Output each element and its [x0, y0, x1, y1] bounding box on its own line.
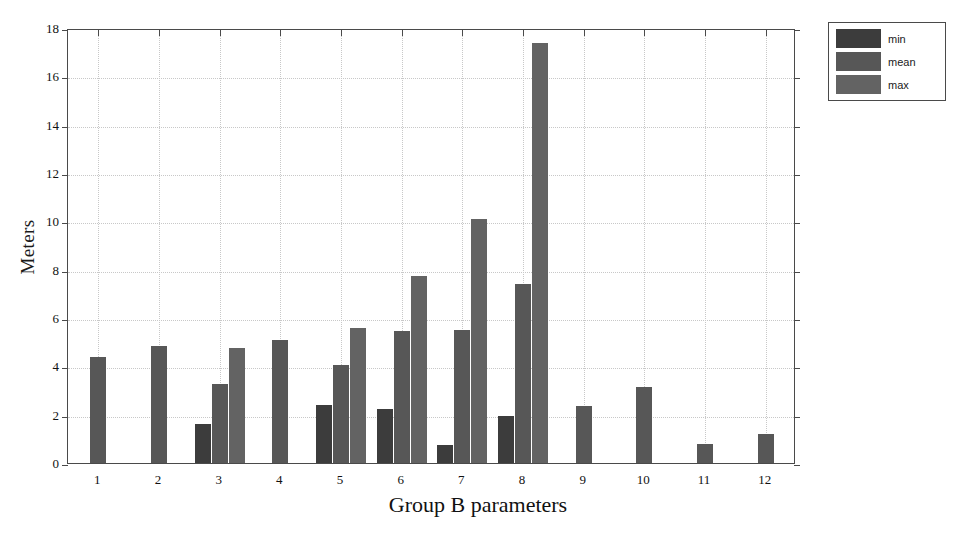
x-tick-label: 11 — [698, 472, 711, 488]
y-tick-mark — [794, 175, 800, 176]
bar-mean-6 — [394, 331, 410, 463]
y-tick-mark — [794, 368, 800, 369]
x-tick-label: 4 — [276, 472, 283, 488]
bar-max-5 — [350, 328, 366, 463]
y-tick-mark — [62, 127, 68, 128]
x-tick-label: 12 — [758, 472, 771, 488]
y-tick-label: 18 — [25, 21, 59, 37]
gridline-horizontal — [68, 175, 794, 176]
legend-label-max: max — [888, 79, 909, 91]
legend-swatch-min — [836, 29, 881, 48]
gridline-horizontal — [68, 223, 794, 224]
gridline-horizontal — [68, 127, 794, 128]
y-tick-mark — [794, 320, 800, 321]
gridline-horizontal — [68, 417, 794, 418]
x-tick-mark — [766, 30, 767, 36]
y-tick-mark — [62, 465, 68, 466]
bar-mean-3 — [212, 384, 228, 463]
y-tick-label: 16 — [25, 69, 59, 85]
gridline-vertical — [766, 30, 767, 463]
bar-mean-10 — [636, 387, 652, 463]
y-tick-mark — [62, 30, 68, 31]
x-tick-label: 7 — [458, 472, 465, 488]
y-tick-mark — [62, 223, 68, 224]
gridline-horizontal — [68, 320, 794, 321]
bar-mean-12 — [758, 434, 774, 463]
legend-label-min: min — [888, 33, 906, 45]
x-tick-label: 3 — [215, 472, 222, 488]
x-tick-mark — [644, 30, 645, 36]
y-tick-label: 14 — [25, 118, 59, 134]
x-tick-label: 10 — [637, 472, 650, 488]
y-tick-mark — [62, 78, 68, 79]
gridline-horizontal — [68, 272, 794, 273]
chart-figure: Meters 024681012141618 123456789101112 G… — [0, 0, 956, 548]
x-tick-mark — [220, 30, 221, 36]
legend-item-mean: mean — [836, 52, 939, 71]
x-tick-label: 2 — [155, 472, 162, 488]
x-tick-label: 9 — [579, 472, 586, 488]
bar-mean-9 — [576, 406, 592, 463]
y-tick-mark — [794, 30, 800, 31]
y-tick-mark — [62, 272, 68, 273]
y-tick-mark — [62, 175, 68, 176]
gridline-vertical — [705, 30, 706, 463]
y-tick-mark — [62, 368, 68, 369]
gridline-horizontal — [68, 78, 794, 79]
x-axis-title: Group B parameters — [0, 492, 956, 518]
legend-item-min: min — [836, 29, 939, 48]
legend-label-mean: mean — [888, 56, 916, 68]
x-tick-mark — [462, 30, 463, 36]
legend-item-max: max — [836, 75, 939, 94]
bar-mean-7 — [454, 330, 470, 463]
y-tick-mark — [794, 223, 800, 224]
x-tick-mark — [705, 30, 706, 36]
bar-min-6 — [377, 409, 393, 463]
y-tick-label: 2 — [25, 408, 59, 424]
bar-max-3 — [229, 348, 245, 463]
x-tick-mark — [159, 30, 160, 36]
x-tick-label: 6 — [397, 472, 404, 488]
x-tick-mark — [523, 30, 524, 36]
bar-min-8 — [498, 416, 514, 463]
y-tick-label: 4 — [25, 359, 59, 375]
x-tick-label: 5 — [337, 472, 344, 488]
y-tick-label: 0 — [25, 456, 59, 472]
bar-max-7 — [471, 219, 487, 463]
bar-mean-11 — [697, 444, 713, 463]
plot-area — [67, 29, 795, 464]
y-tick-mark — [794, 417, 800, 418]
x-tick-mark — [341, 30, 342, 36]
x-tick-mark — [280, 30, 281, 36]
y-axis-title-wrap: Meters — [26, 29, 27, 464]
legend-swatch-max — [836, 75, 881, 94]
x-tick-mark — [402, 30, 403, 36]
gridline-horizontal — [68, 368, 794, 369]
legend-swatch-mean — [836, 52, 881, 71]
x-tick-mark — [98, 30, 99, 36]
chart-legend: min mean max — [828, 22, 946, 101]
bar-max-6 — [411, 276, 427, 463]
y-tick-label: 8 — [25, 263, 59, 279]
y-tick-label: 12 — [25, 166, 59, 182]
bar-max-8 — [532, 43, 548, 464]
x-tick-label: 8 — [519, 472, 526, 488]
bar-mean-4 — [272, 340, 288, 463]
y-tick-label: 10 — [25, 214, 59, 230]
bar-mean-1 — [90, 357, 106, 463]
bar-mean-2 — [151, 346, 167, 463]
y-tick-mark — [62, 417, 68, 418]
y-tick-mark — [794, 465, 800, 466]
bar-mean-5 — [333, 365, 349, 463]
x-tick-mark — [584, 30, 585, 36]
gridline-vertical — [584, 30, 585, 463]
bar-min-5 — [316, 405, 332, 463]
bar-min-3 — [195, 424, 211, 463]
y-tick-label: 6 — [25, 311, 59, 327]
bar-min-7 — [437, 445, 453, 463]
x-tick-label: 1 — [94, 472, 101, 488]
y-tick-mark — [794, 127, 800, 128]
y-tick-mark — [62, 320, 68, 321]
y-tick-mark — [794, 78, 800, 79]
bar-mean-8 — [515, 284, 531, 463]
